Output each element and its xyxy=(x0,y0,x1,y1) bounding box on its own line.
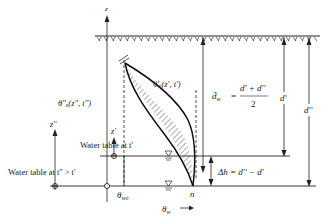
d-bar-formula: d̄w = d' + d'' 2 xyxy=(212,83,268,109)
water-table-t-double-prime-label: Water table at t'' > t' xyxy=(8,167,76,177)
theta-double-prime-label: θ''ᵤ(z'', t'') xyxy=(58,98,91,108)
water-table-t-prime-label: Water table at t' xyxy=(80,140,133,150)
d-prime-label: d' xyxy=(280,93,288,103)
d-bar-arrow xyxy=(201,37,206,173)
z-double-prime-label: z'' xyxy=(49,120,57,129)
delta-h-arrow: Δh = d'' − d' xyxy=(209,156,265,186)
z-axis-label: z xyxy=(104,5,108,13)
svg-text:2: 2 xyxy=(251,99,256,109)
svg-text:d̄w: d̄w xyxy=(212,91,221,102)
water-table-symbol-upper xyxy=(165,151,172,160)
z-axis: z xyxy=(104,5,110,202)
d-double-prime-label: d'' xyxy=(304,105,313,115)
theta-wo-label: θwo xyxy=(117,190,128,201)
theta-prime-label: θ'ᵤ(z', t') xyxy=(153,79,181,89)
ground-surface xyxy=(95,36,320,41)
delta-h-label: Δh = d'' − d' xyxy=(217,167,265,177)
z-double-prime-axis: z'' xyxy=(49,120,58,190)
n-label: n xyxy=(190,189,195,199)
d-prime-arrow: d' xyxy=(279,37,290,157)
z-prime-label: z' xyxy=(110,127,116,136)
d-double-prime-arrow: d'' xyxy=(303,37,316,187)
water-table-symbol-lower xyxy=(165,181,172,190)
theta-w-axis-label: θw xyxy=(162,204,194,215)
svg-text:d' + d'': d' + d'' xyxy=(240,83,266,93)
svg-text:=: = xyxy=(231,91,236,101)
soil-moisture-profile-diagram: z z'' z' θ''ᵤ(z'', t'') θ'ᵤ(z', t') xyxy=(0,0,329,224)
svg-text:θw: θw xyxy=(162,204,170,215)
